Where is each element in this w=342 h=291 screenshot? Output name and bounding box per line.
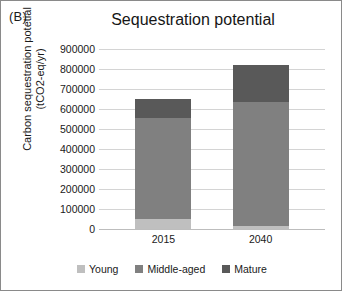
gridline [99,189,325,190]
y-axis-tick-labels: 9000008000007000006000005000004000003000… [41,49,95,229]
y-axis-label-line1: Carbon sequestration potetial [21,7,33,151]
gridline [99,129,325,130]
y-axis-tick-label: 700000 [41,84,95,95]
x-axis-tick-label-2015: 2015 [123,233,203,246]
legend-item-middle-aged[interactable]: Middle-aged [135,263,205,275]
gridline [99,229,325,230]
gridline [99,109,325,110]
plot-area [99,49,325,229]
y-axis-tick-label: 400000 [41,144,95,155]
legend-swatch-icon [77,265,85,273]
chart-title: Sequestration potential [57,10,329,30]
y-axis-tick-label: 0 [41,224,95,235]
bar-segment-mature [135,99,191,118]
gridline [99,69,325,70]
legend-label: Mature [234,263,267,275]
legend-item-mature[interactable]: Mature [222,263,267,275]
bar-segment-young [135,219,191,229]
bar-segment-young [233,226,289,229]
legend-item-young[interactable]: Young [77,263,118,275]
y-axis-tick-label: 600000 [41,104,95,115]
bar-segment-middle-aged [233,102,289,226]
gridline [99,49,325,50]
gridline [99,149,325,150]
bar-2015 [135,49,191,229]
y-axis-tick-label: 300000 [41,164,95,175]
x-axis-tick-label-2040: 2040 [221,233,301,246]
gridline [99,169,325,170]
bar-segment-middle-aged [135,118,191,219]
figure-panel-b: (B) Sequestration potential Carbon seque… [0,0,342,291]
y-axis-tick-label: 500000 [41,124,95,135]
bar-segment-mature [233,65,289,102]
legend-label: Young [89,263,118,275]
gridline [99,209,325,210]
gridline [99,89,325,90]
legend-swatch-icon [222,265,230,273]
legend-swatch-icon [135,265,143,273]
legend: YoungMiddle-agedMature [1,263,342,275]
y-axis-tick-label: 800000 [41,64,95,75]
x-axis-tick-labels: 20152040 [99,233,325,249]
y-axis-tick-label: 100000 [41,204,95,215]
legend-label: Middle-aged [147,263,205,275]
bar-2040 [233,49,289,229]
y-axis-tick-label: 900000 [41,44,95,55]
y-axis-tick-label: 200000 [41,184,95,195]
